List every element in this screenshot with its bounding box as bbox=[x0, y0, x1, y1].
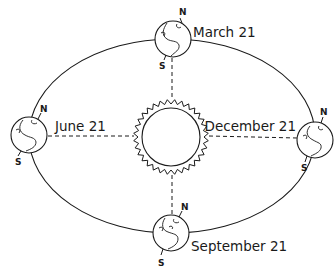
orbit-diagram: N S March 21 N S June 21 N S December 21 bbox=[0, 0, 336, 277]
south-label: S bbox=[159, 61, 165, 71]
north-label: N bbox=[320, 107, 328, 117]
earth-march: N S bbox=[155, 7, 191, 71]
earth-september: N S bbox=[153, 202, 189, 268]
sun-icon bbox=[134, 100, 209, 175]
north-label: N bbox=[181, 202, 189, 212]
earth-globe-icon bbox=[297, 117, 333, 162]
label-june-21: June 21 bbox=[54, 118, 106, 134]
earth-globe-icon bbox=[11, 113, 47, 156]
earth-december: N S bbox=[297, 107, 333, 173]
label-march-21: March 21 bbox=[193, 24, 256, 40]
earth-june: N S bbox=[11, 104, 48, 167]
label-september-21: September 21 bbox=[191, 238, 287, 254]
north-label: N bbox=[179, 7, 187, 17]
earth-globe-icon bbox=[153, 211, 189, 255]
south-label: S bbox=[158, 258, 164, 268]
label-december-21: December 21 bbox=[205, 118, 296, 134]
north-label: N bbox=[40, 104, 48, 114]
south-label: S bbox=[15, 157, 21, 167]
south-label: S bbox=[301, 163, 307, 173]
earth-globe-icon bbox=[155, 18, 191, 60]
